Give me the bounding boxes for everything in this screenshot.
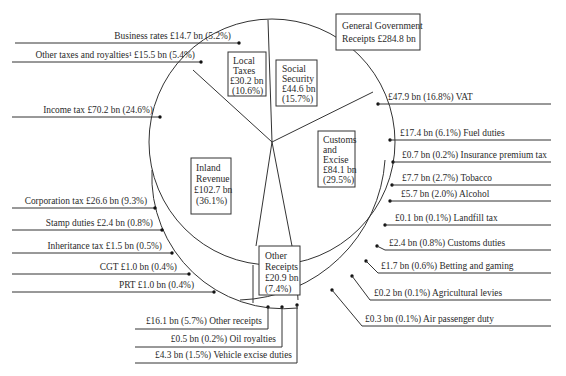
svg-text:Receipts £284.8 bn: Receipts £284.8 bn (342, 33, 416, 44)
svg-text:Other taxes and royalties¹ £15: Other taxes and royalties¹ £15.5 bn (5.4… (35, 50, 195, 61)
svg-text:£0.2 bn (0.1%) Agricultural le: £0.2 bn (0.1%) Agricultural levies (374, 288, 502, 299)
svg-text:(7.4%): (7.4%) (265, 283, 291, 295)
svg-text:£20.9 bn: £20.9 bn (265, 272, 299, 283)
svg-text:£0.5 bn (0.2%) Oil royalties: £0.5 bn (0.2%) Oil royalties (171, 334, 277, 345)
svg-text:Business rates £14.7 bn (5.2%): Business rates £14.7 bn (5.2%) (114, 31, 231, 42)
svg-text:Receipts: Receipts (265, 261, 298, 272)
svg-text:£0.1 bn (0.1%) Landfill tax: £0.1 bn (0.1%) Landfill tax (395, 213, 498, 224)
segment-social-security: Social Security £44.6 bn (15.7%) (276, 60, 317, 106)
segment-local-taxes: Local Taxes £30.2 bn (10.6%) (228, 52, 266, 97)
svg-text:(15.7%): (15.7%) (282, 93, 313, 105)
svg-text:£1.7 bn (0.6%) Betting and gam: £1.7 bn (0.6%) Betting and gaming (381, 261, 514, 272)
svg-text:General Government: General Government (342, 20, 423, 31)
svg-text:PRT £1.0 bn (0.4%): PRT £1.0 bn (0.4%) (119, 280, 194, 291)
segment-other-receipts: Other Receipts £20.9 bn (7.4%) (259, 246, 300, 295)
chart-title-box: General Government Receipts £284.8 bn (336, 14, 423, 50)
svg-text:Corporation tax £26.6 bn (9.3%: Corporation tax £26.6 bn (9.3%) (25, 196, 147, 207)
divider-other-left (256, 142, 272, 246)
svg-text:£0.7 bn (0.2%) Insurance premi: £0.7 bn (0.2%) Insurance premium tax (402, 150, 547, 161)
segment-customs-excise: Customs and Excise £84.1 bn (29.5%) (318, 131, 357, 187)
svg-text:£4.3 bn (1.5%) Vehicle excise: £4.3 bn (1.5%) Vehicle excise duties (155, 350, 292, 361)
segment-inland-revenue: Inland Revenue £102.7 bn (36.1%) (191, 158, 233, 214)
svg-text:£16.1 bn (5.7%) Other receipts: £16.1 bn (5.7%) Other receipts (146, 316, 262, 327)
svg-text:(10.6%): (10.6%) (232, 85, 263, 97)
svg-text:£7.7 bn (2.7%) Tobacco: £7.7 bn (2.7%) Tobacco (402, 173, 492, 184)
svg-text:£5.7 bn (2.0%) Alcohol: £5.7 bn (2.0%) Alcohol (401, 189, 490, 200)
divider-other-right (272, 142, 292, 246)
divider-local-social (268, 20, 272, 142)
svg-text:Revenue: Revenue (196, 173, 230, 184)
bottom-breakdown: £16.1 bn (5.7%) Other receipts £0.5 bn (… (135, 303, 299, 363)
svg-text:Income tax £70.2 bn (24.6%): Income tax £70.2 bn (24.6%) (43, 105, 153, 116)
svg-text:Stamp duties £2.4 bn (0.8%): Stamp duties £2.4 bn (0.8%) (46, 218, 153, 229)
svg-text:(36.1%): (36.1%) (196, 195, 227, 207)
svg-text:£17.4 bn (6.1%) Fuel duties: £17.4 bn (6.1%) Fuel duties (400, 128, 505, 139)
svg-text:Inland: Inland (196, 162, 221, 173)
pie-chart: Local Taxes £30.2 bn (10.6%) Social Secu… (0, 0, 566, 376)
svg-text:CGT £1.0 bn (0.4%): CGT £1.0 bn (0.4%) (100, 262, 177, 273)
svg-text:Other: Other (265, 250, 288, 261)
svg-text:£0.3 bn (0.1%) Air passenger d: £0.3 bn (0.1%) Air passenger duty (365, 314, 494, 325)
right-breakdown: £47.9 bn (16.8%) VAT £17.4 bn (6.1%) Fue… (330, 92, 551, 326)
svg-text:(29.5%): (29.5%) (323, 174, 354, 186)
svg-text:£2.4 bn (0.8%) Customs duties: £2.4 bn (0.8%) Customs duties (389, 238, 505, 249)
svg-text:£102.7 bn: £102.7 bn (194, 184, 233, 195)
svg-text:£47.9 bn (16.8%) VAT: £47.9 bn (16.8%) VAT (388, 92, 473, 103)
svg-text:Inheritance tax £1.5 bn (0.5%): Inheritance tax £1.5 bn (0.5%) (47, 241, 162, 252)
